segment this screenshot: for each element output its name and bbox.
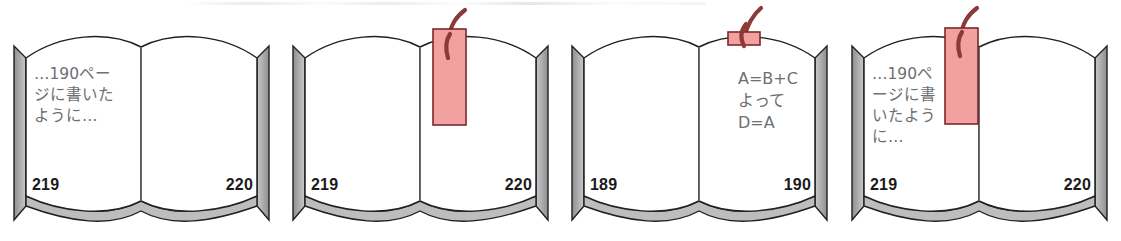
bookmark-ribbon-panel-2 xyxy=(433,10,466,125)
book-panel-2: 219 220 xyxy=(279,0,562,241)
bookmark-ribbon-panel-4 xyxy=(945,8,978,124)
book-panel-3: A=B+CよってD=A 189 190 xyxy=(558,0,841,241)
bookmark-tab-panel-3 xyxy=(728,8,761,46)
folio-left-panel-3: 189 xyxy=(590,176,617,194)
book-panel-1: …190ページに書いたように… 219 220 xyxy=(0,0,283,241)
folio-right-panel-2: 220 xyxy=(505,176,532,194)
figure-canvas: …190ページに書いたように… 219 220 xyxy=(0,0,1121,241)
folio-left-panel-2: 219 xyxy=(311,176,338,194)
folio-right-panel-1: 220 xyxy=(226,176,253,194)
folio-right-panel-4: 220 xyxy=(1064,176,1091,194)
folio-right-panel-3: 190 xyxy=(784,176,811,194)
folio-left-panel-1: 219 xyxy=(32,176,59,194)
book-panel-4: …190ページに書いたように… 219 220 xyxy=(838,0,1121,241)
folio-left-panel-4: 219 xyxy=(870,176,897,194)
